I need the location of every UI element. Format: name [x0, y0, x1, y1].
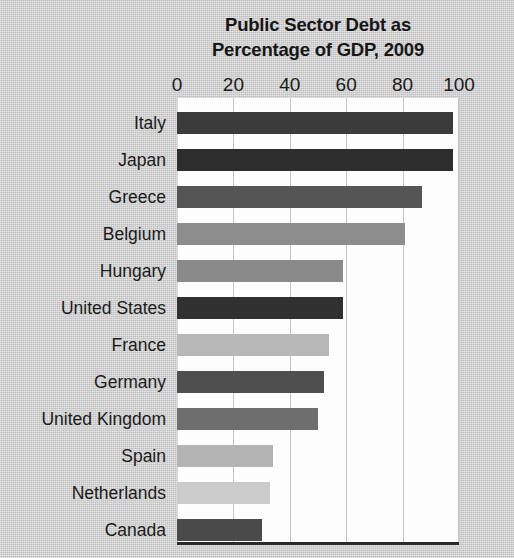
chart-title-line-1: Public Sector Debt as: [177, 12, 459, 37]
plot-area: [177, 98, 459, 545]
bar-hungary: [177, 260, 343, 282]
bar-japan: [177, 149, 453, 171]
bar-greece: [177, 186, 422, 208]
x-tick-label-40: 40: [260, 73, 320, 97]
category-label-united-states: United States: [0, 297, 172, 319]
x-tick-label-20: 20: [203, 73, 263, 97]
category-label-belgium: Belgium: [0, 223, 172, 245]
bar-canada: [177, 519, 262, 541]
category-label-canada: Canada: [0, 519, 172, 541]
bar-italy: [177, 112, 453, 134]
bar-united-states: [177, 297, 343, 319]
category-label-spain: Spain: [0, 445, 172, 467]
category-label-france: France: [0, 334, 172, 356]
x-tick-label-0: 0: [147, 73, 207, 97]
x-tick-label-100: 100: [429, 73, 489, 97]
chart-title-line-2: Percentage of GDP, 2009: [177, 37, 459, 62]
chart-title: Public Sector Debt as Percentage of GDP,…: [177, 12, 459, 62]
bar-france: [177, 334, 329, 356]
category-label-greece: Greece: [0, 186, 172, 208]
bar-netherlands: [177, 482, 270, 504]
bars: [177, 98, 459, 542]
category-label-japan: Japan: [0, 149, 172, 171]
category-axis-labels: ItalyJapanGreeceBelgiumHungaryUnited Sta…: [0, 98, 172, 542]
bar-belgium: [177, 223, 405, 245]
bar-germany: [177, 371, 324, 393]
bar-united-kingdom: [177, 408, 318, 430]
category-label-italy: Italy: [0, 112, 172, 134]
bar-chart-figure: Public Sector Debt as Percentage of GDP,…: [0, 0, 514, 558]
x-tick-label-60: 60: [316, 73, 376, 97]
x-axis-tick-labels: 020406080100: [0, 73, 514, 98]
bar-spain: [177, 445, 273, 467]
category-label-netherlands: Netherlands: [0, 482, 172, 504]
category-label-united-kingdom: United Kingdom: [0, 408, 172, 430]
category-label-hungary: Hungary: [0, 260, 172, 282]
x-tick-label-80: 80: [373, 73, 433, 97]
category-label-germany: Germany: [0, 371, 172, 393]
